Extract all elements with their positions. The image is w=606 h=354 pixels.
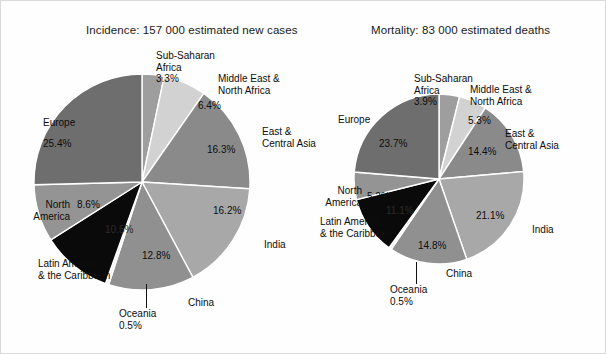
label-text: East & Central Asia <box>262 126 316 149</box>
chart-mortality: Mortality: 83 000 estimated deaths Sub-S… <box>320 0 606 354</box>
pct-india-mortality: 21.1% <box>476 210 504 222</box>
label-middle-east-north-africa-mortality: Middle East & North Africa <box>470 84 532 107</box>
label-europe-incidence: Europe <box>43 117 75 129</box>
label-pct: 3.9% <box>414 96 437 107</box>
pct-north-america-incidence: 8.6% <box>77 199 100 211</box>
pie-slice <box>34 74 142 185</box>
label-text: Sub-Saharan Africa <box>414 73 473 96</box>
label-north-america-incidence: North America <box>22 199 70 222</box>
chart-title-incidence: Incidence: 157 000 estimated new cases <box>86 24 298 36</box>
pct-middle-east-north-africa-mortality: 5.3% <box>468 115 491 127</box>
pct-east-central-asia-incidence: 16.3% <box>207 144 235 156</box>
label-middle-east-north-africa-incidence: Middle East & North Africa <box>218 73 280 96</box>
pct-china-incidence: 12.8% <box>142 250 170 262</box>
label-europe-mortality: Europe <box>338 114 370 126</box>
label-latin-america-mortality: Latin America & the Caribbean <box>320 216 392 239</box>
label-oceania-mortality: Oceania 0.5% <box>390 284 427 307</box>
label-china-incidence: China <box>188 297 214 309</box>
pct-europe-incidence: 25.4% <box>43 138 71 150</box>
pct-europe-mortality: 23.7% <box>379 138 407 150</box>
label-text: East & Central Asia <box>505 128 559 151</box>
pct-india-incidence: 16.2% <box>213 205 241 217</box>
label-india-mortality: India <box>532 224 554 236</box>
chart-incidence: Incidence: 157 000 estimated new cases S… <box>0 0 320 354</box>
pct-latin-america-incidence: 10.5% <box>105 224 133 236</box>
chart-title-mortality: Mortality: 83 000 estimated deaths <box>371 24 550 36</box>
label-east-central-asia-incidence: East & Central Asia <box>262 126 316 149</box>
pct-north-america-mortality: 5.2% <box>367 191 390 203</box>
label-east-central-asia-mortality: East & Central Asia <box>505 128 559 151</box>
label-sub-saharan-africa-mortality: Sub-Saharan Africa 3.9% <box>414 73 473 108</box>
label-sub-saharan-africa-incidence: Sub-Saharan Africa 3.3% <box>156 50 215 85</box>
pct-latin-america-mortality: 11.1% <box>386 205 414 217</box>
label-india-incidence: India <box>264 239 286 251</box>
label-text: Sub-Saharan Africa <box>156 50 215 73</box>
leader-line-oceania-incidence <box>146 284 147 308</box>
label-latin-america-incidence: Latin America & the Caribbean <box>38 258 110 281</box>
pct-middle-east-north-africa-incidence: 6.4% <box>198 100 221 112</box>
pct-east-central-asia-mortality: 14.4% <box>468 146 496 158</box>
label-pct: 3.3% <box>156 73 179 84</box>
label-text: Middle East & North Africa <box>218 73 280 96</box>
label-north-america-mortality: North America <box>320 185 362 208</box>
label-china-mortality: China <box>446 268 472 280</box>
pct-china-mortality: 14.8% <box>418 240 446 252</box>
leader-line-oceania-mortality <box>416 262 417 284</box>
label-oceania-incidence: Oceania 0.5% <box>119 308 156 331</box>
label-text: Middle East & North Africa <box>470 84 532 107</box>
